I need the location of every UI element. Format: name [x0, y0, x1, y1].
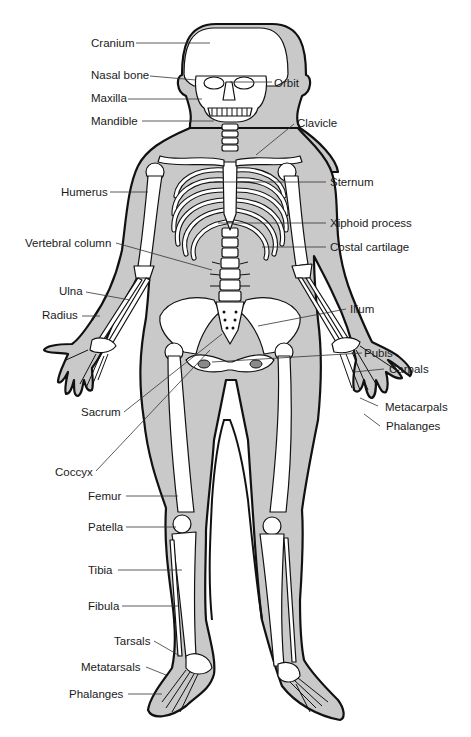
- label-fibula: Fibula: [88, 600, 119, 613]
- label-vertebral-column: Vertebral column: [25, 237, 111, 250]
- label-maxilla: Maxilla: [91, 92, 127, 105]
- label-orbit: Orbit: [274, 77, 299, 90]
- label-foot-phalanges: Phalanges: [69, 688, 123, 701]
- label-coccyx: Coccyx: [55, 466, 93, 479]
- label-xiphoid-process: Xiphoid process: [330, 217, 412, 230]
- label-tibia: Tibia: [88, 564, 113, 577]
- label-metatarsals: Metatarsals: [81, 661, 140, 674]
- label-pubis: Pubis: [364, 347, 393, 360]
- sternum-bone: [223, 162, 237, 222]
- label-sacrum: Sacrum: [81, 406, 121, 419]
- label-hand-phalanges: Phalanges: [386, 420, 440, 433]
- teeth: [208, 108, 252, 116]
- orbit-left: [204, 77, 224, 89]
- patella-right: [263, 517, 281, 535]
- label-sternum: Sternum: [330, 176, 373, 189]
- orbit-right: [234, 77, 254, 89]
- label-ilium: Ilium: [350, 303, 374, 316]
- label-costal-cartilage: Costal cartilage: [330, 241, 409, 254]
- label-patella: Patella: [88, 521, 123, 534]
- label-clavicle: Clavicle: [297, 117, 337, 130]
- label-femur: Femur: [88, 490, 121, 503]
- label-nasal-bone: Nasal bone: [91, 69, 149, 82]
- label-carpals: Carpals: [389, 363, 429, 376]
- label-radius: Radius: [42, 309, 78, 322]
- label-cranium: Cranium: [91, 37, 134, 50]
- label-humerus: Humerus: [61, 186, 108, 199]
- label-ulna: Ulna: [59, 285, 83, 298]
- patella-left: [173, 515, 191, 533]
- label-tarsals: Tarsals: [114, 635, 150, 648]
- label-metacarpals: Metacarpals: [385, 401, 448, 414]
- label-mandible: Mandible: [91, 115, 138, 128]
